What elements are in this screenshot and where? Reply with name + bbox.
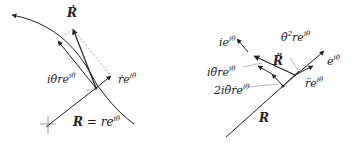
label-i-theta-dot-r-e: iθ̇reiθ: [47, 73, 75, 85]
label-i-theta-ddot: iθ̈reiθ: [207, 66, 235, 78]
label-r-ddot: r̈eiθ: [305, 77, 323, 89]
radial-velocity-vector: [96, 76, 111, 88]
tangential-accel-vector: [258, 66, 272, 74]
dashed-parallelogram-2: [60, 29, 73, 38]
particle-point: [95, 87, 98, 90]
velocity-vector-Rdot: [73, 29, 96, 88]
pointer-line-3: [290, 58, 298, 70]
label-two-i-theta-dot-r-dot: 2iθ̇ṙeiθ: [214, 84, 249, 96]
pointer-line-2: [248, 84, 278, 87]
label-R: R: [259, 112, 269, 124]
label-R-equals: R = reiθ: [73, 116, 120, 128]
label-R-dot: Ṙ: [67, 7, 77, 19]
radial-accel-vector: [295, 66, 313, 75]
label-R-ddot: R̈: [273, 55, 283, 67]
trajectory-curve: [12, 15, 134, 124]
particle-point: [282, 85, 285, 88]
label-r-dot-e: ṙeiθ: [118, 73, 136, 85]
label-theta-dot-squared: θ̇2reiθ: [281, 31, 310, 43]
unit-transverse-vector: [237, 39, 248, 52]
label-e: eiθ: [327, 55, 340, 67]
label-ie: ieiθ: [219, 36, 235, 48]
dashed-parallelogram-1: [73, 29, 111, 76]
